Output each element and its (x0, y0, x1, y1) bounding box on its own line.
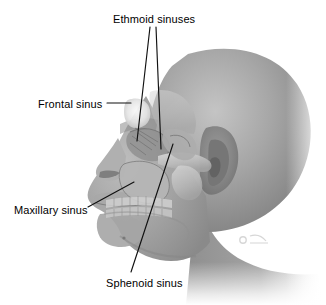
sinus-anatomy-figure: Ethmoid sinuses Frontal sinus Maxillary … (0, 0, 326, 305)
label-maxillary-sinus: Maxillary sinus (14, 204, 88, 216)
right-edge-fade (286, 0, 326, 305)
label-ethmoid-sinuses: Ethmoid sinuses (113, 13, 195, 25)
label-frontal-sinus: Frontal sinus (38, 98, 102, 110)
label-sphenoid-sinus: Sphenoid sinus (106, 277, 183, 289)
head-illustration (0, 0, 326, 305)
watermark (240, 235, 268, 243)
mental-foramen (122, 236, 125, 239)
